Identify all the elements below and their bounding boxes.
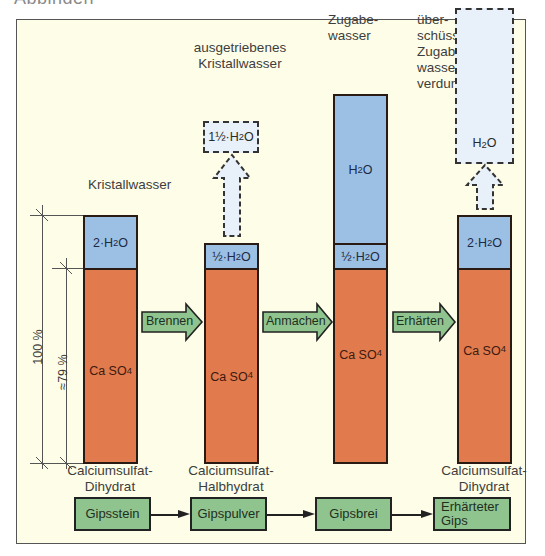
tick-mark-icon <box>56 258 76 278</box>
dimension-label-79: ≈79 % <box>56 349 70 395</box>
process-arrow-anmachen: Anmachen <box>261 302 334 342</box>
tick-mark-icon <box>32 453 52 473</box>
water-segment: ½·H2O <box>335 243 386 268</box>
label-dihydrat-start: Calciumsulfat-Dihydrat <box>65 463 155 495</box>
label-kristallwasser: Kristallwasser <box>88 177 171 193</box>
bar-calciumsulfat-dihydrat-end: 2·H2O Ca SO4 <box>457 215 512 464</box>
flow-arrowhead-icon <box>178 510 190 518</box>
water-segment: 2·H2O <box>85 217 136 268</box>
label-ausgetriebenes-kristallwasser: ausgetriebenesKristallwasser <box>180 40 300 72</box>
process-arrow-erhaerten: Erhärten <box>391 302 457 342</box>
dashed-up-arrow-icon <box>463 163 507 211</box>
water-segment: ½·H2O <box>206 245 257 268</box>
flow-box-gipspulver: Gipspulver <box>190 497 267 531</box>
dimension-label-100: 100 % <box>31 327 45 367</box>
bar-calciumsulfat-dihydrat-start: 2·H2O Ca SO4 <box>83 215 138 464</box>
evaporated-water-box: H2O <box>455 8 514 164</box>
flow-arrowhead-icon <box>303 510 315 518</box>
cut-off-title: Abbinden <box>14 0 94 9</box>
flow-box-gipsstein: Gipsstein <box>74 497 151 531</box>
expelled-water-box: 1½·H2O <box>203 121 259 153</box>
added-water-segment: H2O <box>335 96 386 243</box>
flow-arrow-line <box>392 514 422 516</box>
tick-mark-icon <box>32 205 52 225</box>
bar-calciumsulfat-halbhydrat: ½·H2O Ca SO4 <box>204 243 259 464</box>
flow-box-gipsbrei: Gipsbrei <box>315 497 392 531</box>
label-dihydrat-end: Calciumsulfat-Dihydrat <box>439 463 529 495</box>
flow-arrow-line <box>267 514 304 516</box>
dashed-up-arrow-icon <box>210 152 254 238</box>
salt-segment: Ca SO4 <box>335 268 386 462</box>
salt-segment: Ca SO4 <box>459 268 510 462</box>
label-zugabewasser: Zugabe-wasser <box>328 12 378 44</box>
process-arrow-brennen: Brennen <box>140 302 204 342</box>
water-segment: 2·H2O <box>459 217 510 268</box>
salt-segment: Ca SO4 <box>206 268 257 462</box>
bar-gipsbrei: H2O ½·H2O Ca SO4 <box>333 94 388 464</box>
flow-arrowhead-icon <box>421 510 433 518</box>
salt-segment: Ca SO4 <box>85 268 136 462</box>
flow-box-erhaerteter-gips: Erhärteter Gips <box>433 497 511 531</box>
label-halbhydrat: Calciumsulfat-Halbhydrat <box>186 463 276 495</box>
flow-arrow-line <box>151 514 179 516</box>
